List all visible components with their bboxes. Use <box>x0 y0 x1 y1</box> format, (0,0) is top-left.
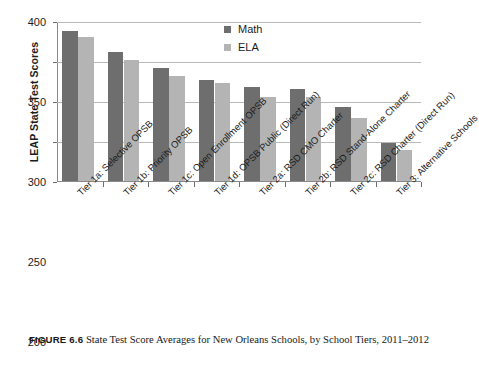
legend-item-math: Math <box>224 22 262 37</box>
bar-ela <box>215 83 231 181</box>
y-tick-label: 400 <box>28 16 46 28</box>
bar-math <box>290 89 306 181</box>
bar-ela <box>306 97 322 181</box>
y-tick-mark: 350 <box>53 62 57 63</box>
figure-caption-label: FIGURE 6.6 <box>29 334 83 345</box>
x-tick-mark <box>376 182 377 187</box>
bar-math <box>381 143 397 181</box>
y-tick-label: 300 <box>28 176 46 188</box>
bar-math <box>108 52 124 181</box>
y-tick-mark: 250 <box>53 142 57 143</box>
bar-math <box>199 80 215 181</box>
x-tick-mark <box>421 182 422 187</box>
legend-swatch-math-icon <box>224 26 231 33</box>
legend-label-math: Math <box>238 22 262 37</box>
x-tick-mark <box>239 182 240 187</box>
bar-math <box>244 87 260 181</box>
x-tick-mark <box>148 182 149 187</box>
bar-ela <box>397 150 413 181</box>
legend-label-ela: ELA <box>238 40 259 55</box>
bar-math <box>62 31 78 181</box>
legend-swatch-ela-icon <box>224 44 231 51</box>
figure-caption-text: State Test Score Averages for New Orlean… <box>86 334 429 345</box>
bar-math <box>335 107 351 181</box>
bar-math <box>153 68 169 181</box>
y-tick-mark: 400 <box>53 22 57 23</box>
x-tick-mark <box>103 182 104 187</box>
x-tick-mark <box>194 182 195 187</box>
bar-ela <box>124 60 140 181</box>
y-tick-mark: 200 <box>53 182 57 183</box>
x-tick-mark <box>330 182 331 187</box>
legend-item-ela: ELA <box>224 40 262 55</box>
bar-ela <box>351 118 367 181</box>
y-tick-label: 350 <box>28 96 46 108</box>
x-tick-mark <box>285 182 286 187</box>
bar-chart: LEAP State Test Scores 200250300350400 M… <box>0 0 458 320</box>
bar-ela <box>169 76 185 181</box>
y-tick-label: 250 <box>28 256 46 268</box>
figure-caption: FIGURE 6.6 State Test Score Averages for… <box>29 333 431 347</box>
legend: Math ELA <box>224 22 262 58</box>
y-tick-mark: 300 <box>53 102 57 103</box>
bar-ela <box>78 37 94 181</box>
bar-ela <box>260 97 276 181</box>
